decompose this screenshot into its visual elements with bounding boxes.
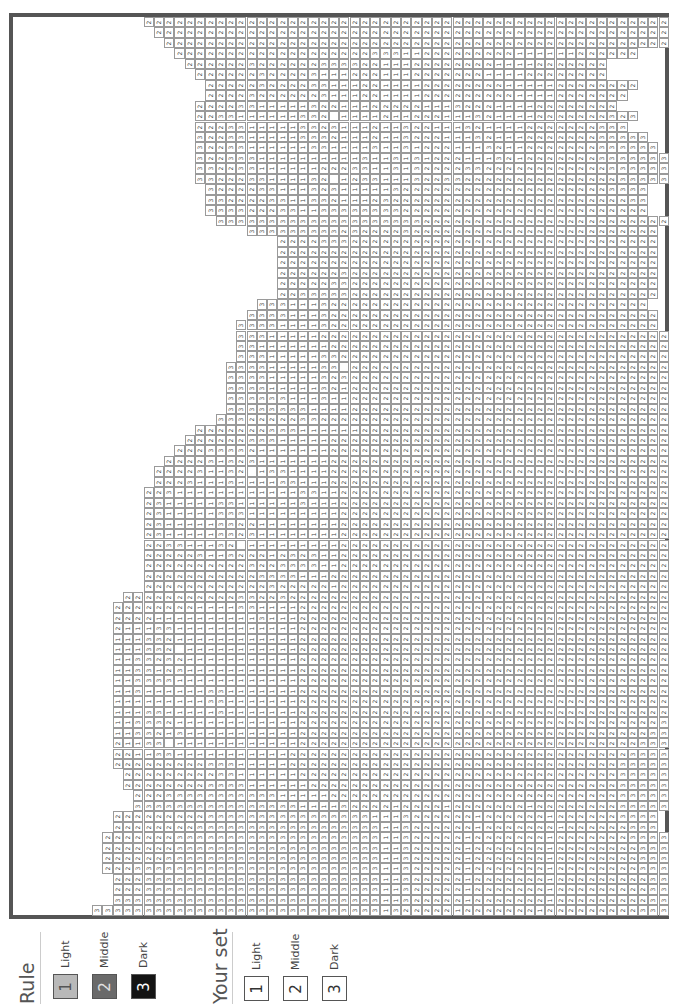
grid-cell[interactable]: 3: [659, 884, 669, 894]
grid-cell[interactable]: 3: [298, 498, 308, 508]
grid-cell[interactable]: 1: [463, 132, 473, 142]
grid-cell[interactable]: 1: [329, 80, 339, 90]
grid-cell[interactable]: 2: [504, 811, 514, 821]
grid-cell[interactable]: 2: [267, 560, 277, 570]
grid-cell[interactable]: 3: [473, 132, 483, 142]
grid-cell[interactable]: 2: [422, 759, 432, 769]
grid-cell[interactable]: 2: [483, 195, 493, 205]
grid-cell[interactable]: 2: [370, 320, 380, 330]
grid-cell[interactable]: 3: [659, 163, 669, 173]
grid-cell[interactable]: 2: [411, 707, 421, 717]
grid-cell[interactable]: 3: [319, 383, 329, 393]
grid-cell[interactable]: 2: [556, 686, 566, 696]
grid-cell[interactable]: 1: [288, 299, 298, 309]
grid-cell[interactable]: 2: [586, 853, 596, 863]
grid-cell[interactable]: 2: [494, 226, 504, 236]
grid-cell[interactable]: 2: [401, 299, 411, 309]
grid-cell[interactable]: 1: [329, 540, 339, 550]
grid-cell[interactable]: 2: [380, 749, 390, 759]
grid-cell[interactable]: 2: [473, 404, 483, 414]
grid-cell[interactable]: 2: [123, 874, 133, 884]
grid-cell[interactable]: 1: [205, 665, 215, 675]
grid-cell[interactable]: 3: [174, 665, 184, 675]
grid-cell[interactable]: 2: [566, 634, 576, 644]
grid-cell[interactable]: 2: [566, 38, 576, 48]
grid-cell[interactable]: 2: [525, 822, 535, 832]
grid-cell[interactable]: 2: [144, 769, 154, 779]
grid-cell[interactable]: 2: [463, 90, 473, 100]
grid-cell[interactable]: 1: [401, 90, 411, 100]
grid-cell[interactable]: 2: [411, 320, 421, 330]
grid-cell[interactable]: 2: [504, 393, 514, 403]
grid-cell[interactable]: 2: [473, 80, 483, 90]
grid-cell[interactable]: 3: [174, 884, 184, 894]
grid-cell[interactable]: 1: [133, 623, 143, 633]
grid-cell[interactable]: 2: [391, 257, 401, 267]
grid-cell[interactable]: 2: [350, 707, 360, 717]
grid-cell[interactable]: 2: [391, 289, 401, 299]
grid-cell[interactable]: 2: [514, 487, 524, 497]
grid-cell[interactable]: 2: [628, 602, 638, 612]
grid-cell[interactable]: 2: [144, 571, 154, 581]
grid-cell[interactable]: 2: [288, 48, 298, 58]
grid-cell[interactable]: 1: [545, 884, 555, 894]
grid-cell[interactable]: 2: [597, 17, 607, 27]
grid-cell[interactable]: 1: [267, 780, 277, 790]
grid-cell[interactable]: 1: [288, 310, 298, 320]
grid-cell[interactable]: 2: [556, 205, 566, 215]
grid-cell[interactable]: 2: [597, 675, 607, 685]
grid-cell[interactable]: 2: [494, 895, 504, 905]
grid-cell[interactable]: 2: [525, 153, 535, 163]
grid-cell[interactable]: 2: [659, 435, 669, 445]
grid-cell[interactable]: 1: [463, 843, 473, 853]
grid-cell[interactable]: 2: [638, 216, 648, 226]
grid-cell[interactable]: 2: [453, 195, 463, 205]
grid-cell[interactable]: 2: [422, 372, 432, 382]
grid-cell[interactable]: 1: [174, 623, 184, 633]
grid-cell[interactable]: 2: [483, 236, 493, 246]
grid-cell[interactable]: 2: [514, 445, 524, 455]
grid-cell[interactable]: 2: [576, 529, 586, 539]
grid-cell[interactable]: 2: [422, 142, 432, 152]
grid-cell[interactable]: 1: [298, 341, 308, 351]
grid-cell[interactable]: 3: [360, 853, 370, 863]
grid-cell[interactable]: 3: [319, 362, 329, 372]
grid-cell[interactable]: 2: [432, 654, 442, 664]
grid-cell[interactable]: 2: [628, 623, 638, 633]
grid-cell[interactable]: 2: [463, 498, 473, 508]
grid-cell[interactable]: 1: [277, 780, 287, 790]
grid-cell[interactable]: 2: [329, 644, 339, 654]
grid-cell[interactable]: 1: [380, 822, 390, 832]
grid-cell[interactable]: 1: [236, 623, 246, 633]
grid-cell[interactable]: 2: [607, 884, 617, 894]
grid-cell[interactable]: 2: [617, 550, 627, 560]
grid-cell[interactable]: 3: [298, 122, 308, 132]
grid-cell[interactable]: 2: [483, 205, 493, 215]
grid-cell[interactable]: 2: [659, 414, 669, 424]
grid-cell[interactable]: 2: [648, 27, 658, 37]
grid-cell[interactable]: 2: [504, 17, 514, 27]
grid-cell[interactable]: 2: [586, 560, 596, 570]
grid-cell[interactable]: 2: [174, 17, 184, 27]
grid-cell[interactable]: 2: [473, 623, 483, 633]
grid-cell[interactable]: 2: [298, 38, 308, 48]
grid-cell[interactable]: 2: [133, 843, 143, 853]
grid-cell[interactable]: 1: [205, 529, 215, 539]
grid-cell[interactable]: 2: [607, 341, 617, 351]
grid-cell[interactable]: 2: [401, 383, 411, 393]
grid-cell[interactable]: 2: [164, 634, 174, 644]
grid-cell[interactable]: 2: [566, 895, 576, 905]
grid-cell[interactable]: 2: [576, 247, 586, 257]
grid-cell[interactable]: 3: [277, 863, 287, 873]
grid-cell[interactable]: 2: [514, 383, 524, 393]
grid-cell[interactable]: 2: [494, 675, 504, 685]
grid-cell[interactable]: 2: [226, 69, 236, 79]
grid-cell[interactable]: 2: [339, 665, 349, 675]
grid-cell[interactable]: 3: [236, 142, 246, 152]
grid-cell[interactable]: 2: [556, 905, 566, 915]
grid-cell[interactable]: 2: [628, 884, 638, 894]
grid-cell[interactable]: 2: [422, 425, 432, 435]
grid-cell[interactable]: 2: [607, 581, 617, 591]
grid-cell[interactable]: 2: [586, 48, 596, 58]
grid-cell[interactable]: 2: [422, 163, 432, 173]
